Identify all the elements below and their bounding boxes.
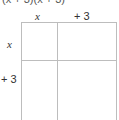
row-label-plus-3: + 3	[1, 73, 17, 85]
grid-middle-horizontal-divider	[21, 60, 117, 61]
grid-middle-vertical-divider	[57, 22, 58, 120]
grid-right-border	[116, 22, 117, 120]
column-label-x: x	[35, 10, 40, 22]
expression-text: (x + 3)(x + 3)	[2, 0, 65, 5]
grid-left-border	[21, 22, 22, 120]
row-label-x: x	[7, 38, 12, 50]
grid-top-border	[21, 22, 117, 23]
column-label-plus-3: + 3	[74, 10, 90, 22]
